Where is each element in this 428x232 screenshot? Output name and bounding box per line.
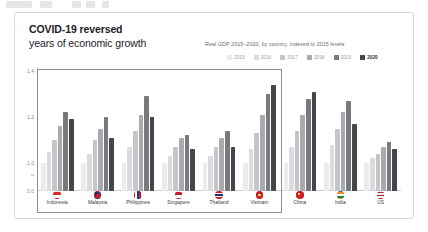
bar-philippines-2017[interactable] xyxy=(133,131,138,191)
x-axis-labels: IndonesiaMalaysiaPhilippinesSingaporeTha… xyxy=(37,191,401,213)
bar-vietnam-2018[interactable] xyxy=(260,115,265,191)
bar-malaysia-2020[interactable] xyxy=(109,138,114,191)
legend-item-2015[interactable]: 2015 xyxy=(227,55,245,60)
flag-icon-vietnam xyxy=(256,191,264,199)
bar-malaysia-2019[interactable] xyxy=(104,117,109,191)
bar-china-2018[interactable] xyxy=(300,115,305,191)
legend-label-2015: 2015 xyxy=(234,55,245,60)
bar-philippines-2020[interactable] xyxy=(150,117,155,191)
x-label-cell-thailand: Thailand xyxy=(199,191,239,213)
bar-malaysia-2017[interactable] xyxy=(93,140,98,191)
x-label-india: India xyxy=(335,200,346,205)
bar-thailand-2020[interactable] xyxy=(231,147,236,191)
chart-plot-area: 1.41.21.00.0≈ xyxy=(37,67,401,191)
bar-china-2019[interactable] xyxy=(306,99,311,191)
flag-icon-singapore xyxy=(175,191,183,199)
bar-india-2017[interactable] xyxy=(335,129,340,192)
bar-philippines-2018[interactable] xyxy=(139,115,144,191)
x-label-philippines: Philippines xyxy=(126,200,150,205)
x-label-indonesia: Indonesia xyxy=(47,200,68,205)
x-label-cell-india: India xyxy=(320,191,360,213)
legend-item-2020[interactable]: 2020 xyxy=(360,55,378,60)
bar-singapore-2016[interactable] xyxy=(168,156,173,191)
bar-singapore-2017[interactable] xyxy=(173,147,178,191)
bar-group-philippines xyxy=(118,67,158,191)
legend-label-2020: 2020 xyxy=(367,55,378,60)
bar-singapore-2015[interactable] xyxy=(162,163,167,191)
bar-india-2018[interactable] xyxy=(341,112,346,191)
flag-icon-indonesia xyxy=(53,191,61,199)
bar-malaysia-2015[interactable] xyxy=(81,163,86,191)
bar-us-2016[interactable] xyxy=(370,158,375,191)
bar-indonesia-2015[interactable] xyxy=(41,163,46,191)
bar-group-us xyxy=(361,67,401,191)
bar-india-2015[interactable] xyxy=(324,163,329,191)
bar-singapore-2020[interactable] xyxy=(190,149,195,191)
legend-label-2019: 2019 xyxy=(341,55,352,60)
bar-us-2020[interactable] xyxy=(392,149,397,191)
bar-singapore-2019[interactable] xyxy=(185,135,190,191)
bar-philippines-2019[interactable] xyxy=(144,96,149,191)
legend-item-2019[interactable]: 2019 xyxy=(334,55,352,60)
bar-us-2019[interactable] xyxy=(387,142,392,191)
x-label-cell-singapore: Singapore xyxy=(158,191,198,213)
legend-label-2016: 2016 xyxy=(261,55,272,60)
bar-malaysia-2018[interactable] xyxy=(98,129,103,192)
legend-swatch-2017 xyxy=(280,55,285,60)
legend-item-2017[interactable]: 2017 xyxy=(280,55,298,60)
x-label-cell-vietnam: Vietnam xyxy=(239,191,279,213)
y-tick-1.4: 1.4 xyxy=(27,68,34,74)
bar-thailand-2015[interactable] xyxy=(203,163,208,191)
bar-indonesia-2016[interactable] xyxy=(47,152,52,192)
x-label-vietnam: Vietnam xyxy=(250,200,268,205)
bar-group-india xyxy=(320,67,360,191)
x-label-cell-malaysia: Malaysia xyxy=(77,191,117,213)
x-label-thailand: Thailand xyxy=(210,200,229,205)
legend-label-2017: 2017 xyxy=(287,55,298,60)
bar-vietnam-2019[interactable] xyxy=(266,94,271,191)
legend-swatch-2015 xyxy=(227,55,232,60)
bar-vietnam-2017[interactable] xyxy=(254,133,259,191)
legend-item-2016[interactable]: 2016 xyxy=(254,55,272,60)
title-line-2: years of economic growth xyxy=(29,37,146,49)
bar-thailand-2018[interactable] xyxy=(219,138,224,191)
chart-card: COVID-19 reversed years of economic grow… xyxy=(14,12,414,219)
flag-icon-philippines xyxy=(134,191,142,199)
bar-thailand-2016[interactable] xyxy=(208,156,213,191)
bar-philippines-2015[interactable] xyxy=(122,163,127,191)
bar-us-2015[interactable] xyxy=(364,163,369,191)
bar-us-2017[interactable] xyxy=(376,154,381,191)
legend-item-2018[interactable]: 2018 xyxy=(307,55,325,60)
bar-group-malaysia xyxy=(77,67,117,191)
flag-icon-india xyxy=(337,191,345,199)
bar-group-singapore xyxy=(158,67,198,191)
bar-vietnam-2020[interactable] xyxy=(271,85,276,191)
bar-indonesia-2020[interactable] xyxy=(69,119,74,191)
bar-india-2019[interactable] xyxy=(346,101,351,191)
flag-icon-us xyxy=(377,191,385,199)
chart-subtitle: Real GDP 2015–2020, by country, indexed … xyxy=(205,41,344,47)
bar-thailand-2017[interactable] xyxy=(214,147,219,191)
bar-china-2017[interactable] xyxy=(295,131,300,191)
bar-thailand-2019[interactable] xyxy=(225,131,230,191)
bar-india-2020[interactable] xyxy=(352,124,357,191)
bar-malaysia-2016[interactable] xyxy=(87,154,92,191)
bar-india-2016[interactable] xyxy=(330,145,335,191)
y-axis-break-symbol: ≈ xyxy=(31,172,34,178)
bar-groups xyxy=(37,67,401,191)
bar-indonesia-2019[interactable] xyxy=(63,112,68,191)
bar-indonesia-2017[interactable] xyxy=(52,140,57,191)
y-tick-1.2: 1.2 xyxy=(27,114,34,120)
bar-china-2020[interactable] xyxy=(312,92,317,191)
y-tick-0.0: 0.0 xyxy=(27,188,34,194)
bar-indonesia-2018[interactable] xyxy=(58,126,63,191)
bar-vietnam-2016[interactable] xyxy=(249,149,254,191)
bar-china-2016[interactable] xyxy=(289,147,294,191)
bar-us-2018[interactable] xyxy=(381,147,386,191)
x-label-cell-china: China xyxy=(280,191,320,213)
bar-singapore-2018[interactable] xyxy=(179,138,184,191)
bar-philippines-2016[interactable] xyxy=(127,147,132,191)
bar-china-2015[interactable] xyxy=(284,163,289,191)
x-label-cell-philippines: Philippines xyxy=(118,191,158,213)
bar-vietnam-2015[interactable] xyxy=(243,163,248,191)
